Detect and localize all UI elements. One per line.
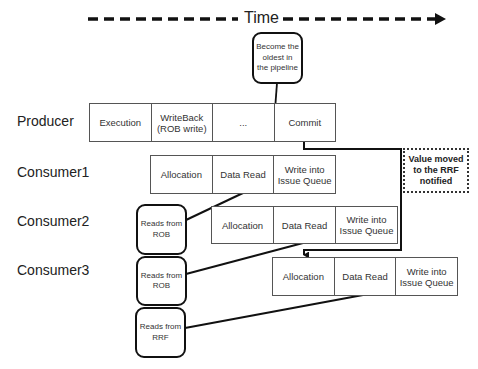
- row-label-consumer3: Consumer3: [17, 262, 89, 278]
- stage-cell: Data Read: [335, 258, 397, 295]
- stage-cell: Execution: [90, 104, 152, 141]
- row-label-consumer2: Consumer2: [17, 213, 89, 229]
- rrf-notification-note: Value moved to the RRF notified: [403, 148, 469, 193]
- source-rob-2: Reads from ROB: [136, 256, 187, 306]
- row-label-consumer1: Consumer1: [17, 164, 89, 180]
- stage-cell: Allocation: [273, 258, 335, 295]
- stage-cell: Data Read: [213, 156, 275, 193]
- stage-cell: WriteBack (ROB write): [152, 104, 214, 141]
- time-label: Time: [240, 9, 283, 27]
- stage-cell: Write into Issue Queue: [274, 156, 335, 193]
- stage-cell: Commit: [275, 104, 336, 141]
- milestone-note: Become the oldest in the pipeline: [252, 32, 303, 84]
- stage-cell: Allocation: [212, 207, 274, 243]
- stage-cell: Data Read: [274, 207, 336, 243]
- source-rrf: Reads from RRF: [135, 307, 186, 358]
- stage-cell: Write into Issue Queue: [396, 258, 457, 295]
- consumer3-read-link: [185, 295, 363, 328]
- time-arrow-head-icon: [435, 13, 446, 25]
- consumer2-pipeline: Allocation Data Read Write into Issue Qu…: [211, 206, 398, 244]
- source-rob-1: Reads from ROB: [136, 204, 187, 255]
- stage-cell: ...: [213, 104, 275, 141]
- row-label-producer: Producer: [17, 113, 74, 129]
- consumer1-pipeline: Allocation Data Read Write into Issue Qu…: [150, 155, 336, 194]
- consumer3-pipeline: Allocation Data Read Write into Issue Qu…: [272, 257, 458, 296]
- stage-cell: Allocation: [151, 156, 213, 193]
- producer-pipeline: Execution WriteBack (ROB write) ... Comm…: [89, 103, 336, 142]
- stage-cell: Write into Issue Queue: [336, 207, 397, 243]
